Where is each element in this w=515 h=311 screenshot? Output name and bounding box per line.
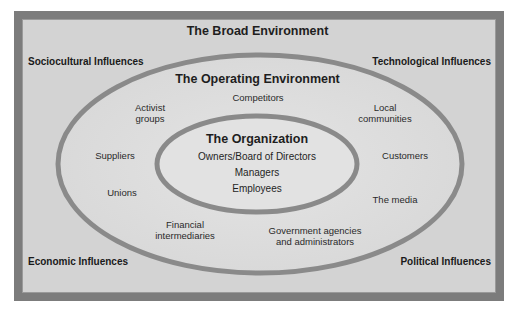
financial-intermediaries-label: Financial intermediaries — [145, 219, 225, 242]
economic-influences-label: Economic Influences — [28, 256, 128, 268]
organization-ellipse — [157, 116, 357, 212]
government-agencies-line1: Government agencies — [255, 225, 375, 236]
local-communities-label: Local communities — [345, 102, 425, 125]
managers-label: Managers — [157, 167, 357, 179]
activist-groups-label: Activist groups — [120, 102, 180, 125]
organization-title: The Organization — [157, 132, 357, 147]
financial-intermediaries-line2: intermediaries — [145, 230, 225, 241]
operating-environment-title: The Operating Environment — [0, 72, 515, 87]
local-communities-line2: communities — [345, 113, 425, 124]
broad-environment-title: The Broad Environment — [0, 24, 515, 39]
financial-intermediaries-line1: Financial — [145, 219, 225, 230]
customers-label: Customers — [370, 150, 440, 161]
technological-influences-label: Technological Influences — [372, 56, 491, 68]
political-influences-label: Political Influences — [400, 256, 491, 268]
employees-label: Employees — [157, 183, 357, 195]
government-agencies-label: Government agencies and administrators — [255, 225, 375, 248]
owners-board-label: Owners/Board of Directors — [157, 151, 357, 163]
sociocultural-influences-label: Sociocultural Influences — [28, 56, 144, 68]
activist-groups-line1: Activist — [120, 102, 180, 113]
government-agencies-line2: and administrators — [255, 236, 375, 247]
media-label: The media — [360, 194, 430, 205]
local-communities-line1: Local — [345, 102, 425, 113]
activist-groups-line2: groups — [120, 113, 180, 124]
unions-label: Unions — [92, 187, 152, 198]
suppliers-label: Suppliers — [80, 150, 150, 161]
competitors-label: Competitors — [208, 92, 308, 103]
